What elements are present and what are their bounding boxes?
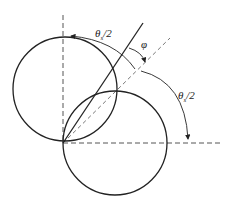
right-theta-label: θs/2 — [178, 89, 195, 104]
phi-arc — [129, 48, 145, 62]
top-theta-label: θs/2 — [95, 27, 112, 42]
diagram-canvas: θs/2 φ θs/2 — [0, 0, 227, 203]
upper-circle — [13, 37, 117, 141]
phi-label: φ — [141, 38, 147, 50]
